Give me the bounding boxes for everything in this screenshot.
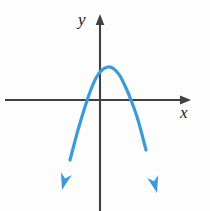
y-axis-arrowhead-icon bbox=[96, 14, 105, 25]
parabola-left-arrowhead-icon bbox=[61, 172, 72, 190]
graph-canvas bbox=[0, 0, 210, 211]
y-axis-label: y bbox=[78, 11, 86, 28]
parabola-right-arrowhead-icon bbox=[147, 175, 158, 193]
parabola-figure: y x bbox=[0, 0, 210, 211]
x-axis-label: x bbox=[180, 104, 188, 121]
parabola-curve bbox=[70, 67, 146, 160]
